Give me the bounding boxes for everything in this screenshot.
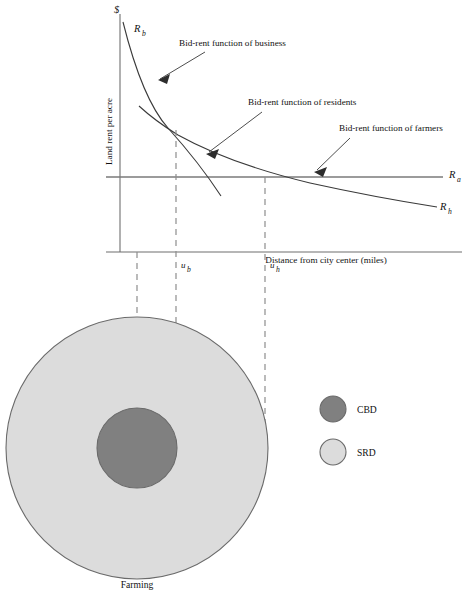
legend-label-srd: SRD — [357, 447, 376, 458]
legend-swatch-srd — [320, 439, 346, 465]
residents-bid-rent-curve — [139, 106, 437, 207]
dollar-symbol: $ — [114, 4, 120, 15]
tick-label-ub: u b — [181, 260, 191, 274]
annotation-farmers: Bid-rent function of farmers — [339, 123, 443, 133]
farming-caption: Farming — [121, 579, 154, 590]
farmers-curve-label: R a — [448, 169, 461, 184]
cbd-zone-circle — [97, 408, 177, 488]
annotation-business: Bid-rent function of business — [179, 38, 286, 48]
svg-text:R: R — [133, 23, 141, 34]
x-axis-label: Distance from city center (miles) — [265, 255, 386, 265]
annotation-residents: Bid-rent function of residents — [248, 97, 357, 107]
svg-text:u: u — [270, 260, 275, 270]
figure-page: $ Land rent per acre Distance from city … — [0, 0, 472, 592]
svg-text:R: R — [439, 201, 447, 212]
svg-text:b: b — [187, 265, 191, 274]
svg-text:a: a — [457, 175, 461, 184]
business-curve-label: R b — [133, 23, 146, 38]
svg-text:h: h — [276, 265, 280, 274]
legend-swatch-cbd — [320, 396, 346, 422]
residents-curve-label: R h — [439, 201, 452, 216]
annotation-business-leader — [158, 52, 205, 84]
business-bid-rent-curve — [123, 22, 221, 196]
annotation-farmers-leader — [314, 138, 350, 177]
legend-label-cbd: CBD — [357, 404, 377, 415]
y-axis-label: Land rent per acre — [104, 98, 114, 165]
bid-rent-diagram: $ Land rent per acre Distance from city … — [0, 0, 472, 592]
svg-text:u: u — [181, 260, 186, 270]
svg-text:h: h — [448, 207, 452, 216]
svg-text:R: R — [448, 169, 456, 180]
svg-text:b: b — [142, 29, 146, 38]
annotation-residents-leader — [206, 112, 262, 159]
legend: CBD SRD — [320, 396, 377, 465]
